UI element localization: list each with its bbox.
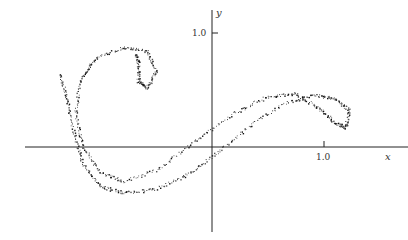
data-point [331, 119, 332, 120]
data-point [123, 48, 124, 49]
data-point [95, 181, 96, 182]
data-point [152, 172, 153, 173]
data-point [65, 97, 66, 98]
data-point [262, 118, 263, 119]
data-point [126, 191, 127, 192]
data-point [78, 89, 79, 90]
data-point [70, 115, 71, 116]
data-point [108, 174, 109, 175]
scatter-points [60, 46, 351, 194]
data-point [116, 191, 117, 192]
data-point [224, 120, 225, 121]
data-point [254, 121, 255, 122]
data-point [61, 75, 62, 76]
data-point [149, 82, 150, 83]
data-point [80, 155, 81, 156]
data-point [91, 174, 92, 175]
data-point [274, 108, 275, 109]
data-point [85, 151, 86, 152]
data-point [331, 97, 332, 98]
data-point [147, 173, 148, 174]
data-point [347, 110, 348, 111]
data-point [195, 140, 196, 141]
data-point [78, 103, 79, 104]
data-point [187, 145, 188, 146]
data-point [127, 47, 128, 48]
data-point [270, 96, 271, 97]
data-point [251, 123, 252, 124]
data-point [138, 64, 139, 65]
data-point [146, 50, 147, 51]
data-point [140, 82, 141, 83]
data-point [308, 103, 309, 104]
data-point [324, 95, 325, 96]
data-point [144, 52, 145, 53]
data-point [292, 102, 293, 103]
data-point [257, 102, 258, 103]
data-point [314, 104, 315, 105]
data-point [79, 133, 80, 134]
data-point [147, 89, 148, 90]
data-point [173, 181, 174, 182]
data-point [62, 86, 63, 87]
data-point [85, 167, 86, 168]
data-point [323, 113, 324, 114]
data-point [154, 67, 155, 68]
data-point [138, 68, 139, 69]
data-point [71, 120, 72, 121]
data-point [334, 98, 335, 99]
data-point [89, 171, 90, 172]
data-point [316, 107, 317, 108]
data-point [232, 140, 233, 141]
data-point [110, 190, 111, 191]
data-point [95, 164, 96, 165]
data-point [154, 189, 155, 190]
data-point [327, 98, 328, 99]
data-point [268, 114, 269, 115]
data-point [198, 139, 199, 140]
data-point [103, 172, 104, 173]
data-point [133, 177, 134, 178]
data-point [250, 106, 251, 107]
data-point [238, 112, 239, 113]
data-point [336, 99, 337, 100]
data-point [330, 116, 331, 117]
data-point [218, 153, 219, 154]
data-point [143, 192, 144, 193]
data-point [88, 68, 89, 69]
data-point [206, 161, 207, 162]
data-point [141, 175, 142, 176]
data-point [227, 119, 228, 120]
data-point [152, 59, 153, 60]
data-point [157, 189, 158, 190]
data-point [311, 101, 312, 102]
data-point [134, 176, 135, 177]
data-point [333, 98, 334, 99]
data-point [95, 163, 96, 164]
data-point [218, 151, 219, 152]
data-point [313, 105, 314, 106]
data-point [175, 180, 176, 181]
data-point [122, 49, 123, 50]
data-point [69, 112, 70, 113]
data-point [117, 51, 118, 52]
data-point [117, 178, 118, 179]
data-point [99, 57, 100, 58]
data-point [128, 191, 129, 192]
data-point [263, 97, 264, 98]
data-point [221, 121, 222, 122]
data-point [112, 176, 113, 177]
data-point [179, 152, 180, 153]
data-point [298, 96, 299, 97]
data-point [245, 108, 246, 109]
data-point [338, 125, 339, 126]
data-point [147, 88, 148, 89]
data-point [75, 108, 76, 109]
data-point [183, 175, 184, 176]
data-point [148, 54, 149, 55]
data-point [153, 64, 154, 65]
data-point [66, 98, 67, 99]
data-point [75, 133, 76, 134]
data-point [101, 186, 102, 187]
data-point [343, 126, 344, 127]
